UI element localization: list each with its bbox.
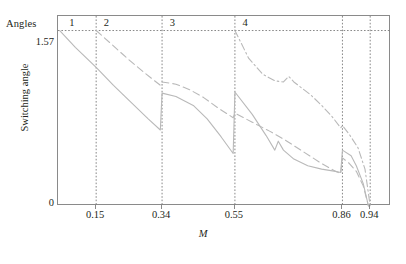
x-tick-mark-0: [95, 205, 96, 209]
x-tick-label-1: 0.34: [152, 209, 170, 220]
x-tick-label-4: 0.94: [360, 209, 378, 220]
region-number-3: 3: [170, 17, 175, 28]
gridlines-group: [58, 16, 391, 206]
plot-area: [57, 15, 390, 205]
curves-group: [60, 31, 370, 206]
region-number-4: 4: [243, 17, 248, 28]
x-tick-label-0: 0.15: [86, 209, 104, 220]
x-axis-label: M: [0, 228, 406, 239]
x-tick-mark-2: [234, 205, 235, 209]
y-tick-label-0: 0: [22, 197, 54, 208]
region-number-1: 1: [69, 17, 74, 28]
region-number-2: 2: [104, 17, 109, 28]
x-tick-mark-4: [369, 205, 370, 209]
angles-label: Angles: [6, 18, 36, 29]
x-tick-label-2: 0.55: [225, 209, 243, 220]
x-tick-label-3: 0.86: [332, 209, 350, 220]
y-axis-label: Switching angle: [19, 43, 30, 153]
curve-theta1: [60, 31, 369, 206]
curve-theta2: [96, 31, 368, 206]
x-tick-mark-3: [341, 205, 342, 209]
figure-container: Angles 1.57 0 Switching angle 1234 0.150…: [0, 0, 406, 264]
plot-svg: [58, 16, 391, 206]
x-tick-mark-1: [161, 205, 162, 209]
